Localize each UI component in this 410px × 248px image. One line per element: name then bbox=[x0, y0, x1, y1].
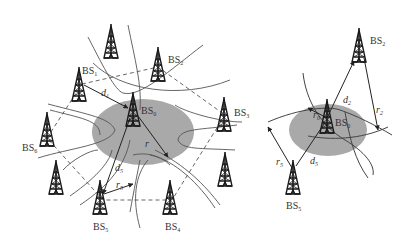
label-right-bs5: BS5 bbox=[286, 201, 301, 212]
label-bs0: BS0 bbox=[141, 106, 156, 117]
label-bs4: BS4 bbox=[165, 222, 180, 233]
label-right-d2: d2 bbox=[343, 95, 351, 106]
label-bs6: BS6 bbox=[22, 143, 37, 154]
tower-bs6-icon bbox=[40, 112, 54, 146]
tower-bs2-icon bbox=[151, 47, 165, 81]
label-bs3: BS3 bbox=[234, 108, 249, 119]
label-right-d5: d5 bbox=[310, 156, 318, 167]
tower-icon bbox=[104, 24, 118, 58]
label-right-bs2: BS2 bbox=[370, 36, 385, 47]
tower-bs4-icon bbox=[163, 180, 177, 214]
tower-bs3-icon bbox=[217, 97, 231, 131]
label-right-bs0: BS0 bbox=[335, 118, 350, 129]
label-bs2: BS2 bbox=[168, 55, 183, 66]
label-right-r5: r5 bbox=[276, 157, 283, 168]
tower-icon bbox=[49, 160, 63, 194]
tower-icon bbox=[218, 152, 232, 186]
label-right-r2: r2 bbox=[376, 105, 383, 116]
label-r: r bbox=[145, 139, 149, 150]
arrow-r2 bbox=[364, 58, 378, 130]
label-d5: d5 bbox=[115, 163, 123, 174]
tower-bs2-icon bbox=[352, 28, 366, 62]
tower-bs5-icon bbox=[286, 160, 300, 194]
label-r5: r5 bbox=[116, 180, 123, 191]
label-bs1: BS1 bbox=[82, 66, 97, 77]
label-d1: d1 bbox=[101, 88, 109, 99]
left-diagram bbox=[38, 24, 242, 228]
label-right-r0: r0 bbox=[313, 110, 320, 121]
label-bs5: BS5 bbox=[93, 222, 108, 233]
right-diagram bbox=[268, 28, 392, 194]
